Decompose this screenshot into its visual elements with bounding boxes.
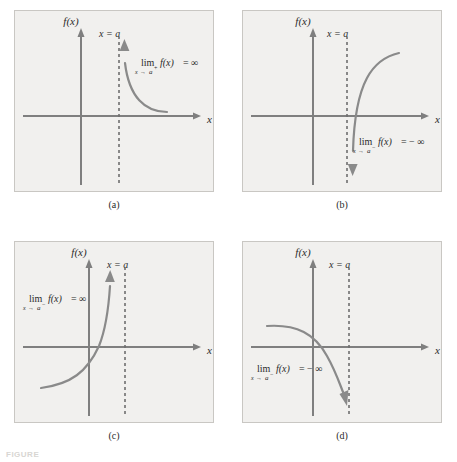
panel-caption-c: (c) [0, 430, 228, 441]
panel-a: f(x) x x = a lim x → a + f(x) = ∞ (a) [0, 0, 228, 231]
limit-operator: lim [141, 57, 155, 68]
x-axis-label: x [434, 113, 440, 125]
plot-svg-c: f(x) x x = a lim x → a − f(x) = ∞ [15, 242, 215, 424]
figure-number-label: FIGURE [6, 450, 39, 459]
panel-caption-a: (a) [0, 199, 228, 210]
limit-sub-point: a [37, 304, 41, 312]
y-axis-label: f(x) [295, 15, 311, 28]
limit-value: ∞ [79, 293, 86, 304]
x-axis-label: x [206, 113, 212, 125]
curve [125, 63, 167, 112]
limit-function: f(x) [276, 363, 291, 375]
limit-operator: lim [359, 136, 373, 147]
limit-sub-point: a [265, 374, 269, 382]
limit-sub-variable: x [250, 375, 254, 381]
limit-function: f(x) [48, 293, 63, 305]
limit-operator: lim [29, 293, 43, 304]
limit-value: − ∞ [409, 136, 424, 147]
limit-function: f(x) [378, 136, 393, 148]
limit-value: ∞ [191, 57, 198, 68]
x-axis-arrowhead [193, 113, 201, 120]
limit-sub-point: a [367, 147, 371, 155]
curve-arrowhead [340, 390, 349, 406]
plot-svg-b: f(x) x x = a lim x → a − f(x) = − ∞ [243, 11, 443, 193]
limit-expression: lim x → a − f(x) = − ∞ [250, 363, 322, 382]
limit-sub-sign: + [154, 65, 158, 71]
plot-area-a: f(x) x x = a lim x → a + f(x) = ∞ [14, 10, 214, 192]
limit-sub-arrow: → [140, 69, 146, 75]
limit-sub-point: a [149, 68, 153, 76]
limit-equals: = [401, 136, 407, 147]
plot-area-c: f(x) x x = a lim x → a − f(x) = ∞ [14, 241, 214, 423]
curve-arrowhead [105, 270, 115, 282]
limit-sub-sign: − [270, 371, 274, 377]
limit-value: − ∞ [307, 363, 322, 374]
plot-area-b: f(x) x x = a lim x → a − f(x) = − ∞ [242, 10, 442, 192]
limit-equals: = [299, 363, 305, 374]
limit-expression: lim x → a + f(x) = ∞ [134, 57, 198, 76]
asymptote-label: x = a [328, 259, 350, 270]
asymptote-label: x = a [98, 28, 120, 39]
asymptote-label: x = a [326, 28, 348, 39]
limit-operator: lim [257, 363, 271, 374]
limit-sub-arrow: → [256, 375, 262, 381]
x-axis-label: x [434, 344, 440, 356]
limit-expression: lim x → a − f(x) = − ∞ [352, 136, 424, 155]
y-axis-label: f(x) [295, 246, 311, 259]
limit-expression: lim x → a − f(x) = ∞ [22, 293, 86, 312]
limit-sub-variable: x [22, 305, 26, 311]
panel-c: f(x) x x = a lim x → a − f(x) = ∞ (c) [0, 231, 228, 462]
panel-b: f(x) x x = a lim x → a − f(x) = − ∞ (b) [228, 0, 456, 231]
limit-equals: = [183, 57, 189, 68]
limit-sub-variable: x [352, 148, 356, 154]
limit-sub-sign: − [372, 144, 376, 150]
y-axis-arrowhead [310, 259, 317, 268]
panel-caption-d: (d) [228, 430, 456, 441]
y-axis-label: f(x) [71, 246, 87, 259]
y-axis-arrowhead [310, 28, 317, 37]
limit-sub-arrow: → [28, 305, 34, 311]
plot-svg-a: f(x) x x = a lim x → a + f(x) = ∞ [15, 11, 215, 193]
limit-sub-arrow: → [358, 148, 364, 154]
limit-sub-variable: x [134, 69, 138, 75]
curve-arrowhead [348, 164, 358, 176]
y-axis-label: f(x) [63, 15, 79, 28]
figure-container: f(x) x x = a lim x → a + f(x) = ∞ (a) [0, 0, 457, 462]
x-axis-label: x [206, 344, 212, 356]
panel-d: f(x) x x = a lim x → a − f(x) = − ∞ (d) [228, 231, 456, 462]
limit-equals: = [71, 293, 77, 304]
plot-svg-d: f(x) x x = a lim x → a − f(x) = − ∞ [243, 242, 443, 424]
curve [267, 326, 343, 392]
y-axis-arrowhead [86, 259, 93, 268]
y-axis-arrowhead [78, 28, 85, 37]
curve-arrowhead [120, 39, 130, 51]
panel-caption-b: (b) [228, 199, 456, 210]
x-axis-arrowhead [193, 344, 201, 351]
plot-area-d: f(x) x x = a lim x → a − f(x) = − ∞ [242, 241, 442, 423]
x-axis-arrowhead [421, 344, 429, 351]
x-axis-arrowhead [421, 113, 429, 120]
limit-sub-sign: − [42, 301, 46, 307]
asymptote-label: x = a [106, 259, 128, 270]
limit-function: f(x) [160, 57, 175, 69]
